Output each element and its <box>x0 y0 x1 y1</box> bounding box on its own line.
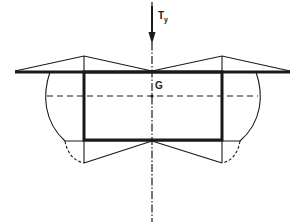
load-label: Ty <box>158 10 168 24</box>
right-shear-curve-dashed <box>222 141 240 163</box>
bottom-left-stress-triangle <box>84 141 152 163</box>
load-arrow-icon <box>149 6 156 44</box>
top-right-stress-triangle <box>152 56 290 71</box>
right-shear-curve <box>240 72 260 141</box>
bottom-right-stress-triangle <box>152 141 222 163</box>
section-rectangle <box>84 72 222 140</box>
left-shear-curve <box>46 72 65 141</box>
left-shear-curve-dashed <box>65 141 84 163</box>
centroid-label: G <box>155 80 163 91</box>
shear-stress-diagram: Ty G <box>0 0 305 224</box>
